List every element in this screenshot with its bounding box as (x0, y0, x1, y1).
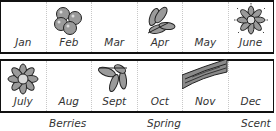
cell-feb: Feb (47, 2, 93, 52)
month-label: Oct (138, 95, 183, 107)
month-label: July (1, 95, 46, 107)
cell-jan: Jan (1, 2, 47, 52)
month-label: May (183, 36, 228, 48)
legend-scent: Scent (241, 117, 271, 129)
cell-may: May (183, 2, 229, 52)
month-label: Apr (138, 36, 183, 48)
month-label: Aug (47, 95, 92, 107)
month-label: Mar (92, 36, 137, 48)
month-label: Dec (229, 95, 274, 107)
cell-oct: Oct (138, 61, 184, 111)
legend-spring: Spring (147, 117, 181, 129)
calendar-row-1: Jan Feb Mar Apr May (0, 0, 274, 54)
cell-july: July (1, 61, 47, 111)
bark-icon (182, 59, 228, 89)
cell-mar: Mar (92, 2, 138, 52)
month-label: Nov (183, 95, 228, 107)
month-label: Jan (1, 36, 46, 48)
flower-icon (7, 63, 39, 95)
month-label: June (229, 36, 274, 48)
legend-berries: Berries (49, 117, 86, 129)
leaves-icon (144, 5, 176, 37)
cell-apr: Apr (138, 2, 184, 52)
cell-nov: Nov (183, 61, 229, 111)
cell-june: June (229, 2, 274, 52)
cell-sept: Sept (92, 61, 138, 111)
berries-icon (52, 5, 86, 37)
calendar-row-2: July Aug Sept Oct Nov Dec (0, 59, 274, 113)
cell-dec: Dec (229, 61, 274, 111)
radiant-flower-icon (234, 3, 268, 37)
cell-aug: Aug (47, 61, 93, 111)
month-label: Feb (47, 36, 92, 48)
month-label: Sept (92, 95, 137, 107)
leaves-icon (97, 64, 131, 94)
